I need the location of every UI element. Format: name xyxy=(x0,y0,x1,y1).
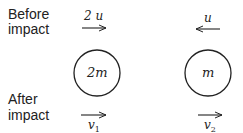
velocity-after-left: v1 xyxy=(88,118,100,133)
after-impact-label-line1: After xyxy=(8,91,38,107)
velocity-before-right: u xyxy=(204,11,212,25)
before-impact-label-line1: Before xyxy=(8,6,49,22)
velocity-before-left: 2 u xyxy=(84,9,103,23)
v2-base: v xyxy=(204,118,211,132)
v1-base: v xyxy=(88,118,95,132)
mass-right: m xyxy=(202,65,214,80)
mass-left: 2m xyxy=(87,65,108,80)
velocity-after-right: v2 xyxy=(204,118,216,133)
v1-subscript: 1 xyxy=(95,125,100,133)
before-impact-label-line2: impact xyxy=(8,21,49,37)
v2-subscript: 2 xyxy=(211,125,216,133)
after-impact-label-line2: impact xyxy=(8,107,49,123)
